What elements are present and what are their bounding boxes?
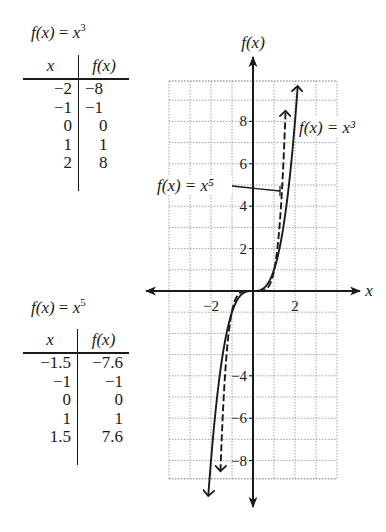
x-tick-label: −2 — [203, 298, 219, 314]
curve-label-cubic: f(x) = x³ — [299, 118, 356, 137]
y-tick-label: −8 — [231, 453, 247, 469]
y-tick-label: 8 — [240, 113, 248, 129]
y-axis-label: f(x) — [241, 33, 265, 52]
function-graph: f(x)x−228642−4−6−8f(x) = x³f(x) = x⁵ — [0, 0, 386, 532]
y-tick-label: 2 — [240, 241, 248, 257]
curve-label-quintic: f(x) = x⁵ — [157, 176, 214, 195]
y-tick-label: 6 — [240, 156, 248, 172]
axis-labels: f(x)x−228642−4−6−8f(x) = x³f(x) = x⁵ — [156, 33, 373, 469]
label-leader-line — [232, 186, 280, 191]
y-tick-label: −6 — [231, 410, 247, 426]
y-tick-label: −4 — [231, 368, 247, 384]
y-tick-label: 4 — [240, 198, 248, 214]
x-tick-label: 2 — [291, 298, 299, 314]
x-axis-label: x — [364, 281, 373, 300]
